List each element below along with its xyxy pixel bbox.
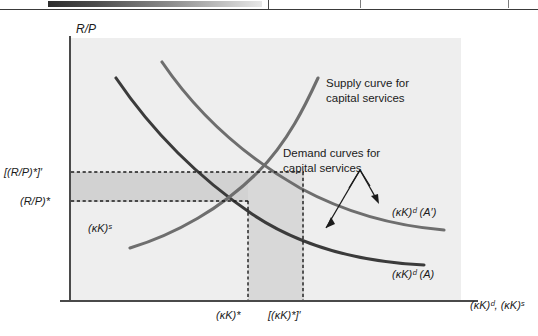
- demand-arrowhead-left: [326, 217, 335, 228]
- x-axis-title: (κK)ᵈ, (κK)ˢ: [470, 298, 524, 312]
- demand-curve-A-label: (κK)ᵈ (A): [392, 267, 434, 281]
- supply-annotation-line2: capital services: [326, 91, 409, 106]
- supply-curve-label: (κK)ˢ: [88, 221, 112, 235]
- demand-arrowhead-right: [371, 194, 379, 204]
- demand-annotation-line2: capital services: [283, 161, 380, 176]
- y-tick-label-rp-star: (R/P)*: [20, 194, 50, 208]
- x-tick-label-kk-star: (κK)*: [216, 308, 240, 322]
- figure-root: R/P (κK)ᵈ, (κK)ˢ [(R/P)*]′ (R/P)* (κK)* …: [0, 0, 538, 336]
- demand-annotation-line1: Demand curves for: [283, 146, 380, 161]
- supply-annotation-line1: Supply curve for: [326, 76, 409, 91]
- y-axis-title: R/P: [76, 22, 96, 37]
- supply-annotation: Supply curve for capital services: [326, 76, 409, 105]
- demand-annotation: Demand curves for capital services: [283, 146, 380, 175]
- y-tick-label-rp-star-prime: [(R/P)*]′: [4, 165, 42, 179]
- curves-layer: [0, 0, 538, 336]
- demand-curve-A-prime-label: (κK)ᵈ (A′): [392, 205, 436, 219]
- x-tick-label-kk-star-prime: [(κK)*]′: [268, 308, 301, 322]
